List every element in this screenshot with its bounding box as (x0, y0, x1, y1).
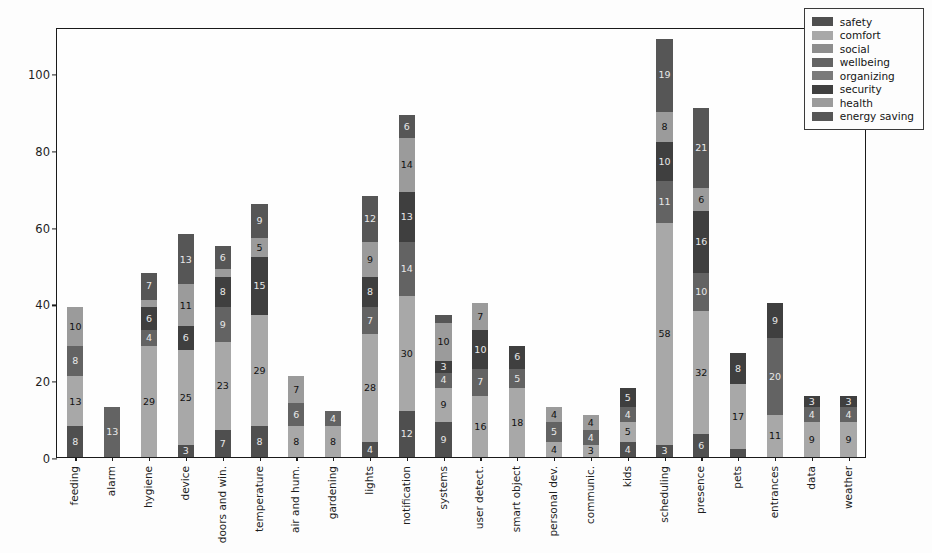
bar-personal-dev-[interactable]: 454 (546, 407, 562, 457)
bar-segment[interactable]: 4 (546, 442, 562, 457)
bar-segment[interactable]: 7 (362, 307, 378, 334)
bar-segment[interactable]: 3 (178, 445, 194, 457)
bar-segment[interactable]: 4 (620, 407, 636, 422)
bar-notification[interactable]: 12301413146 (399, 115, 415, 457)
bar-segment[interactable]: 3 (583, 445, 599, 457)
bar-segment[interactable]: 5 (509, 369, 525, 388)
bar-segment[interactable]: 8 (656, 112, 672, 143)
bar-segment[interactable]: 23 (215, 342, 231, 430)
bar-segment[interactable]: 5 (546, 422, 562, 441)
legend-item[interactable]: security (812, 83, 914, 97)
bar-lights[interactable]: 42878912 (362, 196, 378, 457)
bar-segment[interactable]: 3 (840, 396, 856, 408)
bar-segment[interactable]: 7 (141, 273, 157, 300)
bar-segment[interactable]: 18 (509, 388, 525, 457)
bar-hygiene[interactable]: 29467 (141, 273, 157, 457)
bar-segment[interactable]: 8 (325, 426, 341, 457)
bar-user-detect-[interactable]: 167107 (472, 303, 488, 457)
bar-segment[interactable]: 12 (399, 411, 415, 457)
bar-segment[interactable]: 8 (288, 426, 304, 457)
legend-item[interactable]: safety (812, 15, 914, 29)
bar-segment[interactable]: 20 (767, 338, 783, 415)
bar-segment[interactable]: 10 (67, 307, 83, 345)
bar-segment[interactable]: 3 (804, 396, 820, 408)
bar-segment[interactable] (141, 300, 157, 308)
bar-segment[interactable]: 29 (251, 315, 267, 426)
bar-segment[interactable]: 5 (251, 238, 267, 257)
bar-segment[interactable]: 19 (656, 39, 672, 112)
bar-segment[interactable]: 9 (767, 303, 783, 338)
bar-pets[interactable]: 178 (730, 353, 746, 457)
bar-segment[interactable]: 7 (472, 303, 488, 330)
bar-communic-[interactable]: 344 (583, 415, 599, 457)
bar-segment[interactable]: 11 (767, 415, 783, 457)
bar-segment[interactable] (730, 449, 746, 457)
bar-entrances[interactable]: 11209 (767, 303, 783, 457)
legend-item[interactable]: organizing (812, 69, 914, 83)
bar-segment[interactable]: 7 (288, 376, 304, 403)
bar-segment[interactable]: 8 (67, 426, 83, 457)
bar-segment[interactable]: 4 (141, 330, 157, 345)
bar-presence[interactable]: 6321016621 (693, 108, 709, 457)
bar-segment[interactable]: 4 (362, 442, 378, 457)
bar-segment[interactable]: 6 (399, 115, 415, 138)
bar-segment[interactable]: 16 (472, 396, 488, 457)
bar-segment[interactable]: 30 (399, 296, 415, 411)
bar-segment[interactable]: 16 (693, 211, 709, 272)
bar-segment[interactable]: 7 (472, 369, 488, 396)
bar-segment[interactable]: 3 (656, 445, 672, 457)
legend-item[interactable]: health (812, 96, 914, 110)
bar-segment[interactable]: 3 (435, 361, 451, 373)
bar-segment[interactable]: 9 (215, 307, 231, 342)
bar-segment[interactable]: 9 (362, 242, 378, 277)
bar-segment[interactable]: 15 (251, 257, 267, 315)
bar-segment[interactable]: 9 (435, 422, 451, 457)
bar-smart-object[interactable]: 1856 (509, 346, 525, 457)
bar-segment[interactable]: 4 (620, 442, 636, 457)
bar-segment[interactable]: 4 (325, 411, 341, 426)
bar-segment[interactable]: 4 (583, 415, 599, 430)
bar-segment[interactable] (435, 315, 451, 323)
bar-temperature[interactable]: 8291559 (251, 204, 267, 457)
bar-segment[interactable]: 5 (620, 388, 636, 407)
bar-air-and-hum-[interactable]: 867 (288, 376, 304, 457)
bar-segment[interactable]: 11 (656, 181, 672, 223)
bar-doors-and-win-[interactable]: 723986 (215, 246, 231, 457)
bar-device[interactable]: 32561113 (178, 234, 194, 457)
bar-segment[interactable]: 4 (583, 430, 599, 445)
bar-segment[interactable]: 11 (178, 284, 194, 326)
bar-segment[interactable]: 8 (730, 353, 746, 384)
bar-segment[interactable]: 6 (178, 326, 194, 349)
bar-alarm[interactable]: 13 (104, 407, 120, 457)
bar-segment[interactable]: 6 (693, 434, 709, 457)
bar-segment[interactable]: 9 (435, 388, 451, 423)
bar-kids[interactable]: 4545 (620, 388, 636, 457)
bar-segment[interactable]: 12 (362, 196, 378, 242)
bar-systems[interactable]: 994310 (435, 315, 451, 457)
bar-segment[interactable]: 6 (288, 403, 304, 426)
bar-segment[interactable]: 13 (178, 234, 194, 284)
bar-feeding[interactable]: 813810 (67, 307, 83, 457)
bar-data[interactable]: 943 (804, 396, 820, 457)
bar-segment[interactable]: 9 (840, 422, 856, 457)
bar-segment[interactable]: 4 (804, 407, 820, 422)
bar-segment[interactable]: 8 (67, 346, 83, 377)
bar-segment[interactable]: 6 (693, 188, 709, 211)
bar-segment[interactable]: 7 (215, 430, 231, 457)
bar-segment[interactable]: 6 (509, 346, 525, 369)
bar-segment[interactable]: 8 (362, 277, 378, 308)
bar-segment[interactable]: 4 (840, 407, 856, 422)
bar-segment[interactable]: 13 (104, 407, 120, 457)
bar-segment[interactable] (215, 269, 231, 277)
bar-segment[interactable]: 6 (141, 307, 157, 330)
bar-segment[interactable]: 5 (620, 422, 636, 441)
bar-segment[interactable]: 8 (251, 426, 267, 457)
legend-item[interactable]: energy saving (812, 110, 914, 124)
bar-segment[interactable]: 8 (215, 277, 231, 308)
bar-segment[interactable]: 21 (693, 108, 709, 189)
bar-segment[interactable]: 4 (546, 407, 562, 422)
bar-segment[interactable]: 10 (472, 330, 488, 368)
bar-weather[interactable]: 943 (840, 396, 856, 457)
bar-scheduling[interactable]: 3581110819 (656, 39, 672, 457)
legend-item[interactable]: social (812, 42, 914, 56)
